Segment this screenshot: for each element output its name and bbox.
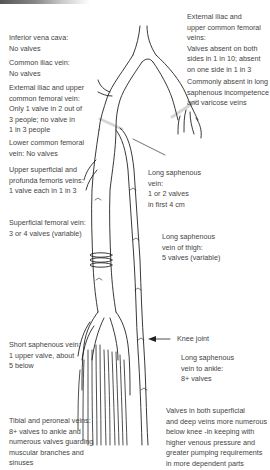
label-commonly-absent: Commonly absent in long saphenous incomp… [187, 77, 270, 109]
label-ivc: Inferior vena cava: No valves [9, 33, 104, 54]
label-external-iliac-left: External iliac and upper common femoral … [9, 83, 109, 136]
label-upper-superficial: Upper superficial and profunda femoris v… [9, 165, 104, 197]
arrowhead-knee-joint [148, 336, 156, 342]
label-common-iliac: Common iliac vein: No valves [9, 58, 104, 79]
label-summary: Valves in both superficial and deep vein… [166, 406, 270, 470]
label-short-saphenous: Short saphenous vein: 1 upper valve, abo… [9, 340, 99, 372]
label-long-saphenous-thigh: Long saphenous vein of thigh: 5 valves (… [162, 232, 257, 264]
label-superficial-femoral: Superficial femoral vein: 3 or 4 valves … [9, 218, 109, 239]
label-external-iliac-right: External iliac and upper common femoral … [187, 12, 270, 76]
pointer-long-saphenous-upper [133, 139, 165, 155]
label-lower-common-femoral: Lower common femoral vein: No valves [9, 138, 104, 159]
label-knee-joint: Knee joint [177, 334, 237, 345]
label-tibial-peroneal: Tibial and peroneal veins: 8+ valves to … [9, 416, 104, 469]
label-long-saphenous-upper: Long saphenous vein: 1 or 2 valves in fi… [148, 168, 228, 210]
label-long-saphenous-ankle: Long saphenous vein to ankle: 8+ valves [181, 353, 261, 385]
